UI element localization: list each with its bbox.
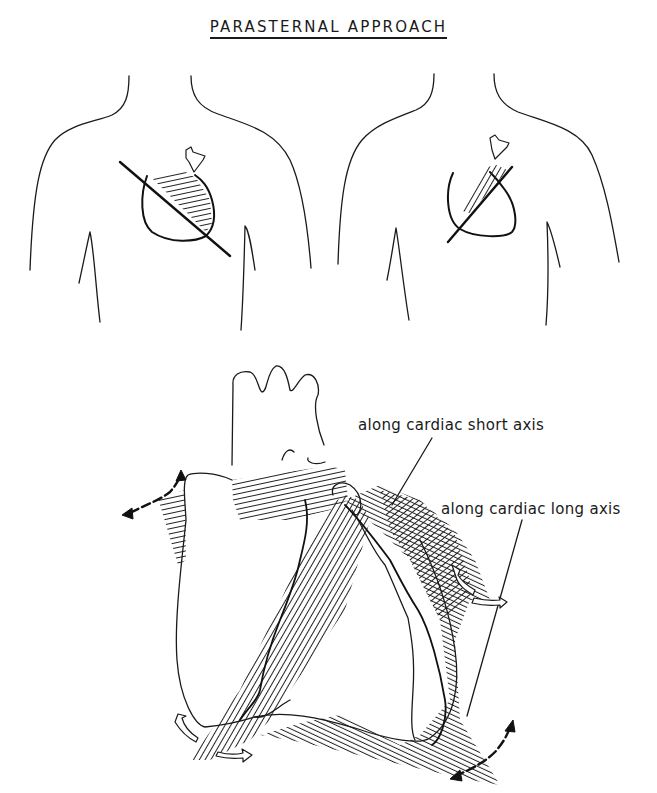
diagram-canvas bbox=[0, 0, 657, 793]
short-axis-scan-right bbox=[380, 490, 470, 620]
left-torso-neck-left bbox=[30, 76, 129, 270]
left-imaging-plane bbox=[152, 170, 212, 232]
upper-left-arrowhead-up-icon bbox=[176, 470, 186, 481]
right-imaging-plane bbox=[462, 165, 507, 213]
right-torso-neck-left bbox=[338, 74, 434, 264]
great-vessels-outline bbox=[232, 366, 324, 465]
valve-leaflet-hook-2 bbox=[308, 458, 325, 464]
right-torso-neck-right bbox=[494, 74, 619, 262]
right-torso-armpit-left bbox=[387, 228, 409, 320]
left-probe-arrow-icon bbox=[186, 147, 205, 172]
right-torso-figure bbox=[338, 74, 619, 325]
valve-leaflet-hook-1 bbox=[282, 450, 294, 460]
right-torso-armpit-right bbox=[546, 222, 560, 325]
right-probe-arrow-icon bbox=[490, 135, 509, 159]
left-torso-figure bbox=[30, 76, 311, 330]
short-axis-pointer bbox=[392, 438, 432, 505]
lower-right-arrowhead-up-icon bbox=[505, 720, 515, 732]
long-axis-pointer bbox=[467, 520, 522, 716]
heart-diagram bbox=[122, 366, 522, 785]
left-torso-armpit-left bbox=[79, 232, 100, 322]
upper-left-arrowhead-left-icon bbox=[122, 508, 133, 519]
right-axis-line bbox=[448, 167, 512, 242]
right-open-rotation-arrow-2-icon bbox=[472, 597, 507, 608]
left-torso-armpit-right bbox=[241, 226, 255, 330]
